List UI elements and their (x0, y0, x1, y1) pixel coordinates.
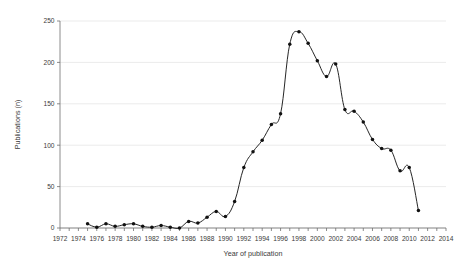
data-point-marker (362, 120, 366, 124)
data-point-marker (398, 169, 402, 173)
data-point-marker (196, 221, 200, 225)
x-tick-label: 1982 (145, 235, 160, 242)
publications-line-chart: 050100150200250 197219741976197819801982… (0, 0, 459, 267)
y-tick-label: 250 (43, 17, 54, 24)
x-tick-label: 1988 (200, 235, 215, 242)
y-tick-label: 150 (43, 100, 54, 107)
data-point-marker (371, 138, 375, 142)
y-tick-label: 0 (51, 224, 55, 231)
data-point-marker (242, 166, 246, 170)
y-tick-label: 200 (43, 59, 54, 66)
y-tick-label: 100 (43, 142, 54, 149)
data-point-marker (169, 225, 173, 229)
data-point-marker (352, 110, 356, 114)
x-tick-label: 1978 (108, 235, 123, 242)
x-tick-label: 1996 (273, 235, 288, 242)
data-point-marker (288, 42, 292, 46)
x-tick-label: 2012 (420, 235, 435, 242)
data-point-marker (86, 222, 90, 226)
data-point-marker (123, 223, 127, 227)
chart-canvas: 050100150200250 197219741976197819801982… (0, 0, 459, 267)
data-point-marker (141, 225, 145, 229)
data-point-marker (260, 138, 264, 142)
x-axis-title: Year of publication (224, 249, 283, 258)
data-point-marker (407, 166, 411, 170)
x-tick-label: 2000 (310, 235, 325, 242)
x-tick-label: 2014 (439, 235, 454, 242)
x-tick-label: 1976 (89, 235, 104, 242)
x-tick-label: 2002 (328, 235, 343, 242)
data-point-marker (159, 224, 163, 228)
x-tick-label: 1992 (236, 235, 251, 242)
data-point-marker (132, 222, 136, 226)
data-point-marker (187, 220, 191, 224)
data-point-marker (233, 200, 237, 204)
data-point-marker (104, 222, 108, 226)
data-point-marker (380, 147, 384, 151)
data-point-marker (334, 62, 338, 66)
data-point-marker (205, 215, 209, 219)
data-point-marker (316, 59, 320, 63)
x-tick-label: 1984 (163, 235, 178, 242)
data-point-marker (251, 150, 255, 154)
x-tick-label: 1986 (181, 235, 196, 242)
x-tick-label: 1994 (255, 235, 270, 242)
data-point-marker (214, 210, 218, 214)
data-point-marker (178, 226, 182, 230)
data-point-marker (224, 215, 228, 219)
x-tick-label: 1990 (218, 235, 233, 242)
x-tick-label: 1998 (292, 235, 307, 242)
data-point-marker (306, 42, 310, 46)
data-point-marker (113, 225, 117, 229)
y-axis-title: Publications (n) (13, 100, 22, 150)
data-point-marker (417, 209, 421, 213)
x-tick-label: 2004 (347, 235, 362, 242)
data-point-marker (270, 123, 274, 127)
data-point-marker (343, 108, 347, 112)
chart-background (0, 0, 459, 267)
data-point-marker (279, 112, 283, 116)
data-point-marker (95, 225, 99, 229)
x-tick-label: 2010 (402, 235, 417, 242)
data-point-marker (150, 225, 154, 229)
data-point-marker (297, 30, 301, 34)
data-point-marker (389, 148, 393, 152)
y-tick-label: 50 (47, 183, 55, 190)
x-tick-label: 2008 (384, 235, 399, 242)
x-tick-label: 1972 (53, 235, 68, 242)
data-point-marker (325, 75, 329, 79)
x-tick-label: 1974 (71, 235, 86, 242)
x-tick-label: 1980 (126, 235, 141, 242)
x-tick-label: 2006 (365, 235, 380, 242)
